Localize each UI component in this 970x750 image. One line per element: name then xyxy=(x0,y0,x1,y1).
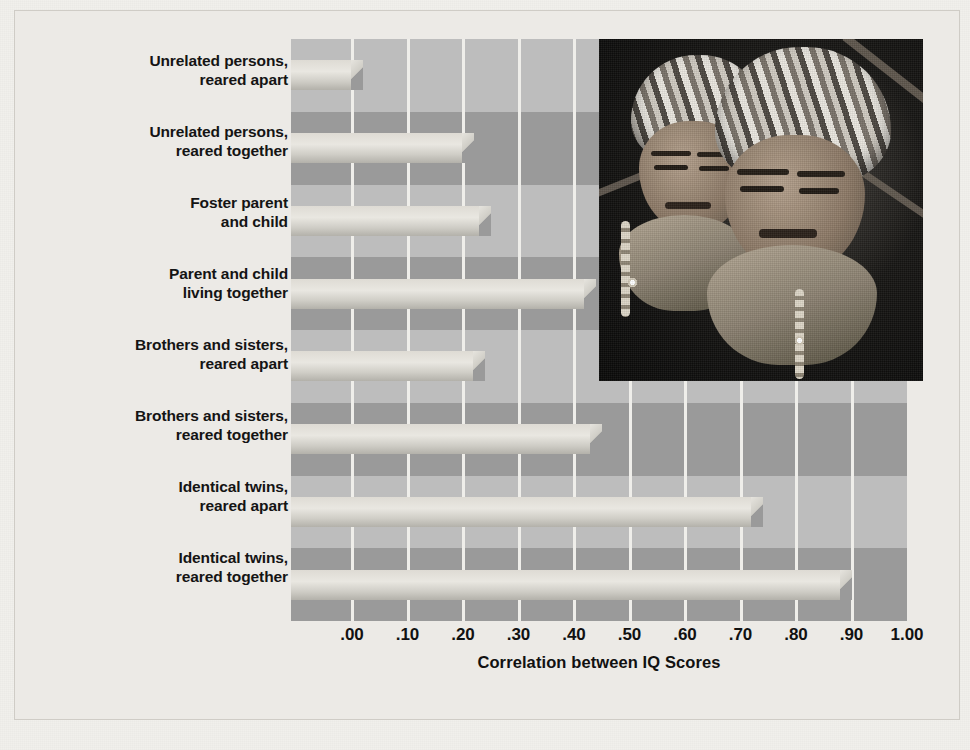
category-label-7-line2: reared together xyxy=(18,567,288,586)
x-tick-label-2: .20 xyxy=(451,625,475,645)
gridline-1 xyxy=(407,39,410,621)
x-tick-label-5: .50 xyxy=(618,625,642,645)
x-tick-label-4: .40 xyxy=(562,625,586,645)
photo-grain-overlay xyxy=(599,39,923,381)
bar-4[interactable] xyxy=(291,351,473,381)
bar-7[interactable] xyxy=(291,570,840,600)
category-label-3: Parent and child living together xyxy=(18,264,288,302)
bar-5[interactable] xyxy=(291,424,590,454)
x-tick-label-3: .30 xyxy=(507,625,531,645)
category-label-5: Brothers and sisters, reared together xyxy=(18,406,288,444)
bar-6[interactable] xyxy=(291,497,751,527)
category-label-2-line2: and child xyxy=(18,212,288,231)
bar-3[interactable] xyxy=(291,279,584,309)
category-label-4-line2: reared apart xyxy=(18,354,288,373)
category-label-3-line1: Parent and child xyxy=(18,264,288,283)
category-label-0: Unrelated persons, reared apart xyxy=(18,51,288,89)
x-tick-label-6: .60 xyxy=(673,625,697,645)
category-label-6-line1: Identical twins, xyxy=(18,477,288,496)
category-label-list: Unrelated persons, reared apart Unrelate… xyxy=(15,49,300,621)
inset-photograph xyxy=(599,39,923,381)
x-tick-label-10: 1.00 xyxy=(890,625,923,645)
bar-2[interactable] xyxy=(291,206,479,236)
category-label-4: Brothers and sisters, reared apart xyxy=(18,335,288,373)
x-tick-label-8: .80 xyxy=(784,625,808,645)
category-label-7-line1: Identical twins, xyxy=(18,548,288,567)
chart-figure: Unrelated persons, reared apart Unrelate… xyxy=(14,10,960,720)
category-label-1: Unrelated persons, reared together xyxy=(18,122,288,160)
category-label-2-line1: Foster parent xyxy=(18,193,288,212)
gridline-3 xyxy=(518,39,521,621)
x-tick-label-9: .90 xyxy=(840,625,864,645)
figure-page: Unrelated persons, reared apart Unrelate… xyxy=(0,0,970,750)
x-tick-label-7: .70 xyxy=(729,625,753,645)
gridline-4 xyxy=(573,39,576,621)
bar-1[interactable] xyxy=(291,133,462,163)
category-label-1-line2: reared together xyxy=(18,141,288,160)
category-label-0-line1: Unrelated persons, xyxy=(18,51,288,70)
category-label-2: Foster parent and child xyxy=(18,193,288,231)
x-tick-label-1: .10 xyxy=(396,625,420,645)
category-label-0-line2: reared apart xyxy=(18,70,288,89)
x-tick-label-0: .00 xyxy=(340,625,364,645)
gridline-2 xyxy=(462,39,465,621)
category-label-4-line1: Brothers and sisters, xyxy=(18,335,288,354)
category-label-6: Identical twins, reared apart xyxy=(18,477,288,515)
category-label-6-line2: reared apart xyxy=(18,496,288,515)
x-axis-ticks: .00.10.20.30.40.50.60.70.80.901.00 xyxy=(291,625,931,651)
x-axis-title: Correlation between IQ Scores xyxy=(291,653,907,672)
bar-0[interactable] xyxy=(291,60,351,90)
category-label-3-line2: living together xyxy=(18,283,288,302)
category-label-7: Identical twins, reared together xyxy=(18,548,288,586)
category-label-1-line1: Unrelated persons, xyxy=(18,122,288,141)
category-label-5-line2: reared together xyxy=(18,425,288,444)
category-label-5-line1: Brothers and sisters, xyxy=(18,406,288,425)
gridline-0 xyxy=(351,39,354,621)
